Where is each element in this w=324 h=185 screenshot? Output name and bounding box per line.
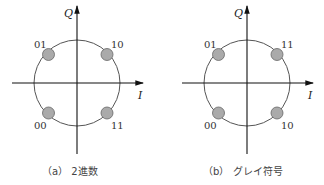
point-label: 10 <box>111 39 124 50</box>
i-axis-label: I <box>307 89 313 102</box>
point-label: 01 <box>34 39 47 50</box>
point-label: 00 <box>204 120 217 131</box>
point-label: 00 <box>34 120 47 131</box>
i-axis-label: I <box>137 89 143 102</box>
point-label: 11 <box>111 120 124 131</box>
point-label: 11 <box>281 39 294 50</box>
symbol-point <box>43 49 55 61</box>
symbol-point <box>213 49 225 61</box>
symbol-point <box>271 49 283 61</box>
constellation-gray: Q I 01 11 00 10 <box>162 0 324 160</box>
symbol-point <box>271 107 283 119</box>
point-label: 01 <box>204 39 217 50</box>
q-axis-label: Q <box>234 7 243 20</box>
constellation-binary: Q I 01 10 00 11 <box>0 0 162 160</box>
caption-b: （b） グレイ符号 <box>203 163 283 178</box>
caption-a: （a） 2進数 <box>42 163 98 178</box>
constellation-diagram-a: Q I 01 10 00 11 <box>0 0 162 160</box>
q-axis-label: Q <box>64 7 73 20</box>
symbol-point <box>101 107 113 119</box>
point-label: 10 <box>281 120 294 131</box>
symbol-point <box>101 49 113 61</box>
symbol-point <box>213 107 225 119</box>
symbol-point <box>43 107 55 119</box>
constellation-diagram-b: Q I 01 11 00 10 <box>162 0 324 160</box>
